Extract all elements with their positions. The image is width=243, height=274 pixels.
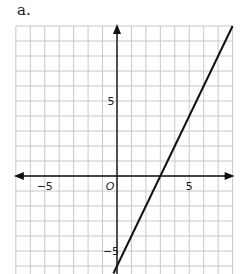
x-tick-label: −5 bbox=[37, 180, 53, 193]
origin-label: O bbox=[106, 180, 115, 193]
y-tick-label: −5 bbox=[103, 245, 119, 258]
y-tick-label: 5 bbox=[108, 95, 115, 108]
x-tick-label: 5 bbox=[186, 180, 193, 193]
line-graph: −555−5O bbox=[0, 0, 243, 274]
